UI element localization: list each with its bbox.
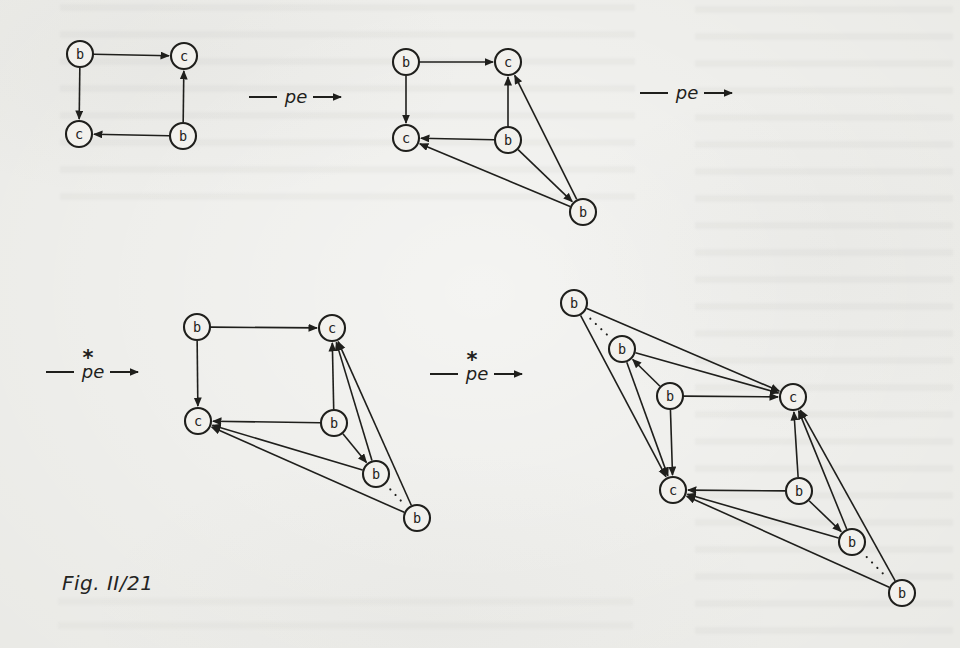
graph-edge-dotted	[589, 318, 607, 335]
graph-node-label: b	[795, 483, 803, 499]
graph-edge-dotted	[390, 489, 402, 502]
production-star: *	[467, 348, 478, 372]
graph-node-label: b	[570, 295, 578, 311]
graph-edge-arrow	[421, 138, 494, 139]
production-arrow: pe*	[46, 346, 138, 382]
graph-edge-arrow	[794, 412, 798, 477]
graph-edge-arrow	[197, 341, 198, 406]
graph-node-label: c	[328, 320, 336, 336]
graph-edge-arrow	[336, 342, 372, 460]
graph-edge-arrow	[799, 411, 847, 529]
graph-edge-arrow	[635, 353, 778, 393]
graph-edge-arrow	[332, 343, 333, 409]
graph-node-label: c	[75, 126, 83, 142]
graph-node-label: b	[666, 388, 674, 404]
graph-edge-arrow	[94, 134, 169, 135]
graph-step-1: bccb	[66, 41, 197, 149]
graph-node-label: c	[194, 413, 202, 429]
graph-node-label: c	[669, 482, 677, 498]
graph-node-label: b	[402, 54, 410, 70]
graph-node-label: b	[504, 132, 512, 148]
graph-node-label: c	[504, 54, 512, 70]
graph-step-4: bbbccbbb	[561, 290, 915, 606]
figure-caption: Fig. II/21	[62, 571, 153, 595]
graph-edge-arrow	[633, 359, 660, 386]
graph-edge-arrow	[211, 327, 317, 328]
graph-edge-arrow	[79, 68, 80, 119]
graph-node-label: b	[193, 319, 201, 335]
graph-step-2: bccbb	[393, 49, 596, 225]
graph-node-label: b	[330, 415, 338, 431]
graph-node-label: b	[579, 204, 587, 220]
graph-edge-arrow	[213, 421, 320, 423]
production-star: *	[83, 346, 94, 370]
production-arrow: pe*	[430, 348, 522, 384]
graph-edge-arrow	[515, 75, 577, 199]
graph-edge-arrow	[670, 410, 672, 475]
graph-edge-arrow	[94, 54, 169, 55]
graph-node-label: b	[413, 510, 421, 526]
graph-node-label: c	[789, 389, 797, 405]
production-arrow: pe	[249, 86, 341, 107]
figure-diagram: bccbbccbbbccbbbbbbccbbbpepepe*pe*	[0, 0, 960, 648]
graph-node-label: c	[402, 130, 410, 146]
graph-edge-arrow	[420, 144, 570, 207]
graph-node-label: b	[898, 585, 906, 601]
graph-edge-arrow	[343, 434, 367, 463]
graph-step-3: bccbbb	[184, 314, 430, 531]
graph-node-label: b	[618, 341, 626, 357]
graph-edge-arrow	[684, 396, 778, 397]
graph-node-label: b	[179, 128, 187, 144]
graph-node-label: b	[848, 534, 856, 550]
scanned-page: bccbbccbbbccbbbbbbccbbbpepepe*pe* Fig. I…	[0, 0, 960, 648]
production-label: pe	[284, 86, 308, 107]
graph-edge-arrow	[183, 71, 184, 122]
graph-edge-arrow	[687, 494, 838, 538]
graph-edge-arrow	[688, 490, 785, 491]
graph-node-label: c	[180, 48, 188, 64]
production-label: pe	[675, 82, 699, 103]
graph-edge-arrow	[627, 362, 668, 476]
production-arrow: pe	[640, 82, 732, 103]
graph-node-label: b	[76, 46, 84, 62]
graph-node-label: b	[372, 466, 380, 482]
